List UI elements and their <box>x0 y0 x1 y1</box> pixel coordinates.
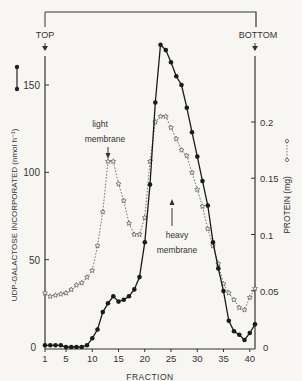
y2-tick-label: 0 <box>263 342 268 353</box>
y2-axis-title: PROTEIN (mg) <box>282 176 292 234</box>
left-series-legend-icon <box>15 65 19 91</box>
y2-tick-label: 0.2 <box>260 117 273 128</box>
x-axis-title: FRACTION <box>126 372 173 381</box>
heavy-membrane-label-2: membrane <box>157 245 198 255</box>
y2-tick-label: 0.05 <box>260 286 279 297</box>
y-tick-label: 0 <box>30 342 36 353</box>
y2-tick-label: 0.15 <box>260 173 279 184</box>
light-arrow-icon <box>106 147 111 159</box>
x-tick-label: 30 <box>192 353 203 364</box>
x-tick-label: 25 <box>166 353 177 364</box>
top-arrow-icon <box>42 43 48 51</box>
x-tick-label: 5 <box>63 353 68 364</box>
y2-legend-icon <box>285 139 288 161</box>
y-tick-label: 150 <box>23 80 40 91</box>
protein-series <box>43 114 258 312</box>
top-label: TOP <box>36 30 54 40</box>
top-bracket <box>45 12 256 27</box>
x-tick-label: 1 <box>42 353 47 364</box>
light-membrane-label-1: light <box>92 119 108 129</box>
bottom-label: BOTTOM <box>239 30 277 40</box>
y-axis-title: UDP-GALACTOSE INCORPORATED (nmol h⁻¹) <box>10 128 19 301</box>
y2-tick-label: 0.1 <box>260 230 273 241</box>
x-tick-label: 35 <box>218 353 229 364</box>
axis-ticks: 151015202530354005010015000.050.10.150.2 <box>23 80 278 364</box>
x-tick-label: 15 <box>113 353 124 364</box>
udp-galactose-series <box>43 43 258 350</box>
x-tick-label: 20 <box>139 353 150 364</box>
heavy-arrow-icon <box>170 199 175 226</box>
light-membrane-label-2: membrane <box>85 134 126 144</box>
x-tick-label: 40 <box>244 353 255 364</box>
heavy-membrane-label-1: heavy <box>166 230 189 240</box>
fractionation-chart: TOP BOTTOM 151015202530354005010015000.0… <box>0 0 302 381</box>
x-tick-label: 10 <box>87 353 98 364</box>
y-tick-label: 100 <box>23 167 40 178</box>
y-tick-label: 50 <box>29 255 41 266</box>
chart-svg: TOP BOTTOM 151015202530354005010015000.0… <box>0 0 302 381</box>
bottom-arrow-icon <box>252 43 258 51</box>
